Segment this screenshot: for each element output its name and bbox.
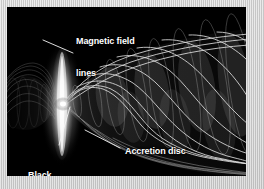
label-black-hole: Black hole (28, 149, 52, 176)
screenshot-root: Magnetic field lines Black hole Accretio… (0, 0, 264, 189)
label-magnetic-field-lines: Magnetic field lines (76, 15, 135, 99)
figure-plate: Magnetic field lines Black hole Accretio… (7, 7, 246, 176)
label-black-hole-line1: Black (28, 170, 52, 176)
label-accretion-disc: Accretion disc (125, 146, 186, 157)
figure-canvas: Magnetic field lines Black hole Accretio… (7, 7, 246, 176)
label-magnetic-field-lines-line2: lines (76, 68, 135, 79)
label-magnetic-field-lines-line1: Magnetic field (76, 36, 135, 47)
